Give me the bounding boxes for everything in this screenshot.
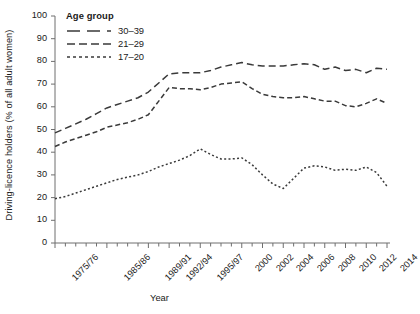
series-line-21-29 bbox=[55, 82, 387, 147]
y-tick-label: 100 bbox=[25, 10, 47, 20]
y-tick-label: 0 bbox=[25, 237, 47, 247]
y-tick-label: 70 bbox=[25, 78, 47, 88]
series-line-17-20 bbox=[55, 149, 387, 199]
y-tick-label: 60 bbox=[25, 101, 47, 111]
series-line-30-39 bbox=[55, 63, 387, 133]
axis-lines bbox=[55, 16, 390, 243]
y-tick-label: 20 bbox=[25, 192, 47, 202]
y-tick-label: 90 bbox=[25, 33, 47, 43]
x-tick-marks bbox=[55, 243, 387, 248]
y-tick-label: 80 bbox=[25, 55, 47, 65]
y-tick-label: 30 bbox=[25, 169, 47, 179]
y-tick-label: 10 bbox=[25, 214, 47, 224]
y-tick-label: 50 bbox=[25, 124, 47, 134]
data-series-lines bbox=[55, 63, 387, 199]
y-tick-label: 40 bbox=[25, 146, 47, 156]
y-tick-marks bbox=[51, 16, 55, 243]
